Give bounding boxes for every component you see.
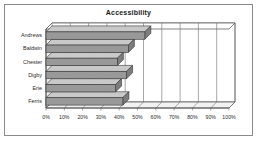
x-tick-30: 30% — [96, 114, 106, 120]
x-axis-tick-labels: 0%10%20%30%40%50%60%70%80%90%100% — [5, 5, 254, 137]
x-tick-100: 100% — [222, 114, 235, 120]
x-tick-60: 60% — [151, 114, 161, 120]
x-tick-40: 40% — [114, 114, 124, 120]
x-tick-0: 0% — [42, 114, 50, 120]
x-tick-80: 80% — [187, 114, 197, 120]
x-tick-50: 50% — [132, 114, 142, 120]
x-tick-20: 20% — [77, 114, 87, 120]
x-tick-70: 70% — [169, 114, 179, 120]
chart-frame: Accessibility FerrisErieDigbyChesterBald… — [4, 4, 253, 136]
x-tick-10: 10% — [59, 114, 69, 120]
x-tick-90: 90% — [205, 114, 215, 120]
